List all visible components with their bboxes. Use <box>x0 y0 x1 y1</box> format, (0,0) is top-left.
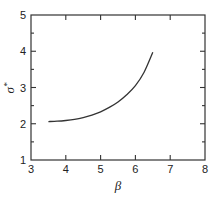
x-tick-labels: 345678 <box>28 163 208 175</box>
y-tick-label: 4 <box>20 45 26 57</box>
y-tick-labels: 12345 <box>20 9 26 166</box>
x-tick-label: 6 <box>132 163 138 175</box>
line-chart: 345678 12345 β σ* <box>0 0 217 202</box>
x-tick-label: 7 <box>167 163 173 175</box>
axis-ticks <box>31 15 205 160</box>
y-tick-label: 3 <box>20 82 26 94</box>
data-line-sigma-star <box>48 52 152 121</box>
x-tick-label: 3 <box>28 163 34 175</box>
y-tick-label: 5 <box>20 9 26 21</box>
y-tick-label: 1 <box>20 154 26 166</box>
x-tick-label: 8 <box>202 163 208 175</box>
x-tick-label: 4 <box>63 163 69 175</box>
x-tick-label: 5 <box>98 163 104 175</box>
plot-frame <box>31 15 205 160</box>
y-tick-label: 2 <box>20 118 26 130</box>
y-axis-label: σ* <box>2 82 17 93</box>
x-axis-label: β <box>114 178 122 193</box>
